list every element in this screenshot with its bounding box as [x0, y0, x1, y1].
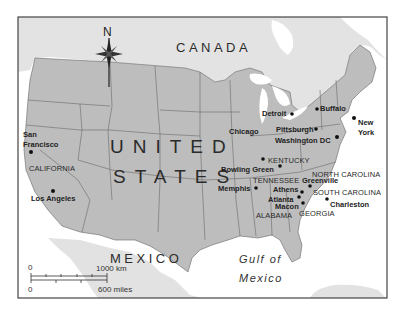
country-label-united: UNITED — [110, 137, 235, 156]
city-dot-athens — [300, 190, 304, 194]
scale-miles-label: 600 miles — [98, 286, 132, 294]
scale-km-label: 1000 km — [96, 265, 127, 273]
state-label-georgia: GEORGIA — [299, 210, 335, 218]
city-label-san-francisco-2: Francisco — [23, 141, 58, 149]
scale-zero-km: 0 — [28, 264, 32, 272]
water-label-gulf-1: Gulf of — [239, 254, 282, 265]
city-dot-new-york — [352, 116, 356, 120]
city-label-buffalo: Buffalo — [320, 105, 346, 113]
city-dot-detroit — [290, 112, 294, 116]
state-label-alabama: ALABAMA — [256, 212, 292, 220]
city-dot-los-angeles — [51, 189, 55, 193]
city-label-washington: Washington DC — [275, 137, 331, 145]
scale-zero-miles: 0 — [28, 286, 32, 294]
city-dot-washington — [335, 135, 339, 139]
city-dot-memphis — [254, 186, 258, 190]
city-label-charleston: Charleston — [330, 201, 369, 209]
city-label-san-francisco-1: San — [23, 131, 37, 139]
city-label-chicago: Chicago — [229, 128, 259, 136]
city-dot-buffalo — [315, 107, 319, 111]
city-dot-atlanta — [297, 195, 301, 199]
city-dot-san-francisco — [29, 150, 33, 154]
city-label-macon: Macon — [275, 203, 299, 211]
city-dot-charleston — [325, 197, 329, 201]
city-label-greenville: Greenville — [302, 177, 338, 185]
city-label-memphis: Memphis — [218, 185, 251, 193]
city-label-athens: Athens — [273, 186, 298, 194]
city-label-new-york-2: York — [358, 129, 374, 137]
city-label-pittsburgh: Pittsburgh — [276, 126, 314, 134]
compass-north-label: N — [103, 26, 112, 38]
country-label-canada: CANADA — [176, 41, 251, 54]
city-label-detroit: Detroit — [262, 110, 286, 118]
state-label-south-carolina: SOUTH CAROLINA — [313, 189, 381, 197]
city-label-bowling-green: Bowling Green — [221, 166, 274, 174]
city-label-los-angeles: Los Angeles — [31, 195, 75, 203]
city-label-new-york-1: New — [358, 119, 373, 127]
city-dot-chicago — [261, 157, 265, 161]
state-label-kentucky: KENTUCKY — [268, 157, 310, 165]
water-label-gulf-2: Mexico — [239, 273, 283, 284]
state-label-tennessee: TENNESSEE — [253, 177, 299, 185]
city-dot-macon — [301, 201, 305, 205]
state-label-california: CALIFORNIA — [29, 165, 75, 173]
city-dot-pittsburgh — [314, 127, 318, 131]
